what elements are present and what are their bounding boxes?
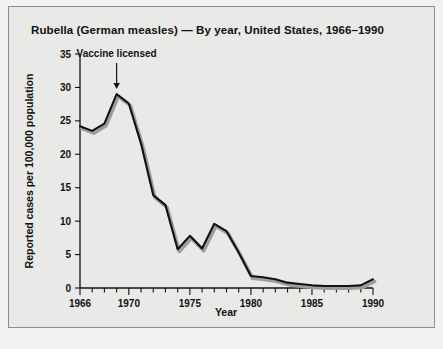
x-axis-tick-label: 1975 [179,298,202,309]
x-axis-tick-label: 1990 [362,298,385,309]
annotation-arrowhead-icon [113,83,119,89]
data-line-shadow [82,96,375,288]
y-axis-tick-label: 20 [60,149,72,160]
x-axis-tick-label: 1980 [240,298,263,309]
y-axis-tick-label: 35 [60,49,72,60]
y-axis-title: Reported cases per 100,000 population [23,74,35,269]
annotation-vaccine-licensed-label: Vaccine licensed [77,48,157,59]
y-axis-tick-labels: 05101520253035 [60,49,72,294]
y-axis-tick-label: 0 [65,283,71,294]
line-chart-plot: 05101520253035 196619701975198019851990 … [9,7,436,329]
y-axis-tick-label: 15 [60,182,72,193]
x-axis-tick-label: 1985 [301,298,324,309]
y-axis-ticks [75,54,80,288]
y-axis-tick-label: 30 [60,82,72,93]
x-axis-tick-label: 1966 [69,298,92,309]
y-axis-tick-label: 10 [60,216,72,227]
y-axis-tick-label: 25 [60,115,72,126]
x-axis-title: Year [215,306,237,318]
figure-container: Rubella (German measles) — By year, Unit… [0,0,443,349]
y-axis-tick-label: 5 [65,249,71,260]
chart-panel: Rubella (German measles) — By year, Unit… [8,6,435,328]
x-axis-tick-label: 1970 [118,298,141,309]
data-line-series [80,94,373,286]
